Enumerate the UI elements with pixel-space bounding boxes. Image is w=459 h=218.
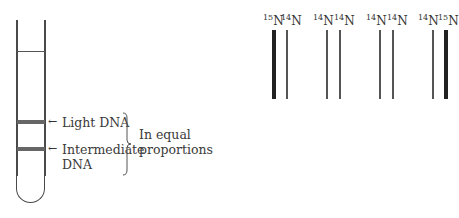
light-strand	[339, 30, 341, 99]
left-arrow-icon: ←	[48, 116, 57, 128]
light-strand	[392, 30, 394, 99]
liquid-surface	[17, 51, 45, 52]
tube-rounded-bottom	[16, 174, 45, 203]
light-dna-label: Light DNA	[62, 115, 129, 130]
heavy-strand	[444, 30, 448, 99]
intermediate-dna-band	[17, 147, 45, 151]
isotope-label: 14N	[334, 11, 355, 28]
tube-right-wall	[44, 20, 46, 176]
isotope-label: 15N	[438, 11, 459, 28]
light-dna-band	[17, 120, 45, 124]
light-strand	[432, 30, 434, 99]
left-arrow-icon: ←	[48, 143, 57, 155]
equal-proportions-label-line2: proportions	[139, 142, 213, 157]
isotope-label: 14N	[313, 11, 334, 28]
isotope-label: 14N	[387, 11, 408, 28]
equal-proportions-label-line1: In equal	[139, 127, 191, 142]
light-strand	[379, 30, 381, 99]
light-strand	[326, 30, 328, 99]
intermediate-dna-label-line1: Intermediate	[62, 142, 145, 157]
tube-left-wall	[16, 20, 18, 176]
isotope-label: 14N	[281, 11, 302, 28]
isotope-label: 14N	[366, 11, 387, 28]
heavy-strand	[272, 30, 276, 99]
light-strand	[286, 30, 288, 99]
intermediate-dna-label-line2: DNA	[62, 157, 92, 172]
curly-brace-icon	[122, 112, 132, 176]
isotope-label: 14N	[418, 11, 439, 28]
